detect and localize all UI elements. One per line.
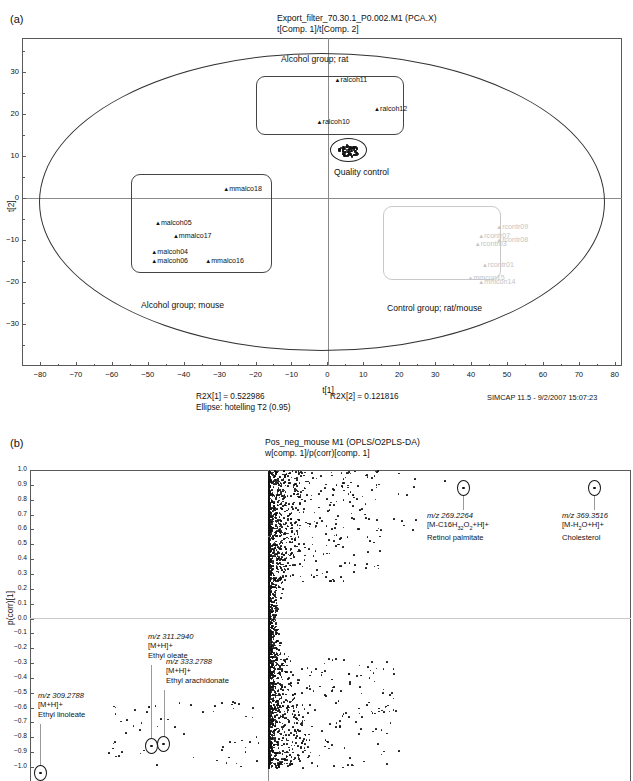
callout-cholesterol[interactable] [588, 480, 601, 496]
loading-point [355, 721, 357, 723]
x-tick [256, 362, 257, 366]
loading-point [270, 645, 272, 647]
loading-point [268, 651, 270, 653]
loading-point [270, 635, 272, 637]
y-tick-minor [22, 93, 25, 94]
loading-point [268, 631, 270, 633]
score-point: ▲ralcoh12 [374, 105, 407, 113]
loading-point [299, 730, 301, 732]
loading-point [281, 553, 283, 555]
loading-point [279, 476, 281, 478]
loading-point [386, 763, 388, 765]
panel-b-yaxis-title: p(corr)[1] [5, 591, 15, 625]
y-tick [30, 708, 34, 709]
loading-point [339, 725, 341, 727]
loading-point [282, 501, 284, 503]
loading-point [268, 689, 270, 691]
loading-point [274, 547, 276, 549]
loading-point [368, 518, 370, 520]
y-tick-label: −0.8 [3, 732, 27, 739]
loading-point [401, 520, 403, 522]
loading-point [148, 706, 150, 708]
loading-point [326, 525, 328, 527]
loading-point [369, 540, 371, 542]
y-tick-label: 0.7 [3, 510, 27, 517]
loading-point [327, 741, 329, 743]
loading-point [277, 752, 279, 754]
y-tick [30, 529, 34, 530]
score-point: ▲ralcoh11 [335, 76, 368, 84]
loading-point [271, 609, 273, 611]
loading-point [301, 692, 303, 694]
loading-point [274, 739, 276, 741]
y-tick [30, 767, 34, 768]
loading-point [324, 487, 326, 489]
loading-point [293, 556, 295, 558]
loading-point [307, 746, 309, 748]
loading-point [280, 597, 282, 599]
loading-point [326, 498, 328, 500]
software-stamp: SIMCAP 11.5 - 9/2/2007 15:07:23 [487, 393, 597, 402]
callout-retinol-palmitate[interactable] [457, 480, 470, 496]
loading-point [393, 673, 395, 675]
loading-point [285, 565, 287, 567]
loading-point [277, 659, 279, 661]
triangle-marker-icon: ▲ [151, 250, 157, 256]
loading-point [280, 659, 282, 661]
loading-point [281, 582, 283, 584]
loading-point [273, 635, 275, 637]
loading-point [275, 584, 277, 586]
loading-point [286, 707, 288, 709]
y-tick [30, 722, 34, 723]
y-tick-label: −0.5 [3, 688, 27, 695]
loading-point [268, 763, 270, 765]
callout-ethyl-arachidonate[interactable] [157, 736, 170, 752]
qc-point [342, 146, 344, 148]
triangle-marker-icon: ▲ [496, 224, 502, 230]
loading-point [258, 742, 260, 744]
loading-point [268, 700, 270, 702]
y-tick [30, 515, 34, 516]
loading-point [268, 496, 270, 498]
loading-point [268, 588, 270, 590]
loading-point [321, 520, 323, 522]
loading-point [289, 565, 291, 567]
loading-point [293, 484, 295, 486]
loading-point [311, 472, 313, 474]
y-tick [30, 574, 34, 575]
y-tick-label: 1.0 [3, 465, 27, 472]
loading-point [118, 755, 120, 757]
loading-point [297, 533, 299, 535]
y-tick [30, 589, 34, 590]
loading-point [268, 572, 270, 574]
loading-point [294, 693, 296, 695]
x-tick [40, 362, 41, 366]
x-tick [76, 362, 77, 366]
loading-point [294, 757, 296, 759]
x-tick-label: 20 [386, 370, 412, 379]
loading-point [146, 711, 148, 713]
loading-point [349, 501, 351, 503]
loading-point [276, 605, 278, 607]
score-point: ▲ralcoh10 [317, 118, 350, 126]
loading-point [284, 496, 286, 498]
loading-point [289, 541, 291, 543]
loading-point [291, 527, 293, 529]
loading-point [284, 533, 286, 535]
callout-ethyl-linoleate[interactable] [34, 765, 47, 781]
triangle-marker-icon: ▲ [223, 187, 229, 193]
loading-point [444, 480, 446, 482]
loading-point [349, 681, 351, 683]
annot-ethyl-linoleate-adduct: [M+H]+ [38, 700, 85, 709]
triangle-marker-icon: ▲ [478, 279, 484, 285]
loading-point [373, 542, 375, 544]
loading-point [320, 490, 322, 492]
callout-ethyl-oleate[interactable] [145, 738, 158, 754]
y-tick [30, 752, 34, 753]
loading-point [273, 476, 275, 478]
loading-point [268, 718, 270, 720]
loading-point [280, 507, 282, 509]
loading-point [339, 538, 341, 540]
loading-point [268, 738, 270, 740]
loading-point [304, 500, 306, 502]
